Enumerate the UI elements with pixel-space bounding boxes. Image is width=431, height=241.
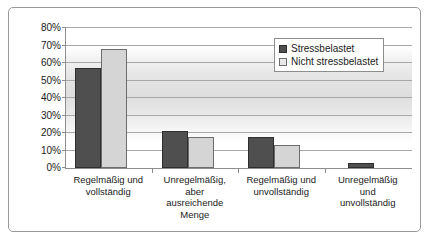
x-axis-tick xyxy=(152,169,153,173)
legend-item: Nicht stressbelastet xyxy=(279,55,378,68)
x-axis-category-label: Unregelmäßigundunvollständig xyxy=(325,174,412,209)
y-axis-tick-label: 70% xyxy=(15,41,61,51)
y-axis-tick-label: 80% xyxy=(15,23,61,33)
legend-item-label: Stressbelastet xyxy=(291,43,354,54)
x-axis-category-label-line: Unregelmäßig xyxy=(325,174,412,186)
x-axis-category-label-line: Regelmäßig und xyxy=(65,174,152,186)
chart-figure: 80%70%60%50%40%30%20%10%0% Regelmäßig un… xyxy=(8,7,421,232)
x-axis-tick xyxy=(325,169,326,173)
y-axis-tick-label: 30% xyxy=(15,111,61,121)
y-axis-tick-label: 20% xyxy=(15,128,61,138)
y-axis-tick-label: 60% xyxy=(15,58,61,68)
y-axis-tick-label: 40% xyxy=(15,93,61,103)
bar-group xyxy=(153,28,240,168)
x-axis-category-label-line: Unregelmäßig, xyxy=(152,174,239,186)
y-axis-tick-label: 10% xyxy=(15,146,61,156)
x-axis-category-label-line: Menge xyxy=(152,209,239,221)
x-axis-category-label: Regelmäßig undvollständig xyxy=(65,174,152,197)
x-axis-category-label-line: vollständig xyxy=(65,186,152,198)
light-square-swatch xyxy=(279,58,287,66)
x-axis-category-label-line: unvollständig xyxy=(238,186,325,198)
bar-nicht-stressbelastet xyxy=(101,49,127,168)
y-axis-tick-label: 0% xyxy=(15,163,61,173)
legend-item: Stressbelastet xyxy=(279,42,378,55)
chart-legend: StressbelastetNicht stressbelastet xyxy=(274,38,384,72)
x-axis-category-label-line: Regelmäßig und xyxy=(238,174,325,186)
bar-nicht-stressbelastet xyxy=(188,137,214,169)
y-axis-tick-label: 50% xyxy=(15,76,61,86)
x-axis-tick xyxy=(238,169,239,173)
x-axis-category-label-line: und xyxy=(325,186,412,198)
y-axis: 80%70%60%50%40%30%20%10%0% xyxy=(13,28,61,169)
bar-stressbelastet xyxy=(162,131,188,168)
x-axis-category-label: Regelmäßig undunvollständig xyxy=(238,174,325,197)
x-axis-category-label-line: aber xyxy=(152,186,239,198)
bar-stressbelastet xyxy=(348,163,374,168)
bar-stressbelastet xyxy=(248,137,274,169)
x-axis-category-label-line: unvollständig xyxy=(325,197,412,209)
bar-group xyxy=(66,28,153,168)
legend-item-label: Nicht stressbelastet xyxy=(291,56,378,67)
dark-square-swatch xyxy=(279,45,287,53)
x-axis-category-label-line: ausreichende xyxy=(152,197,239,209)
x-axis-category-label: Unregelmäßig,aberausreichendeMenge xyxy=(152,174,239,220)
bar-nicht-stressbelastet xyxy=(274,145,300,168)
bar-stressbelastet xyxy=(75,68,101,168)
